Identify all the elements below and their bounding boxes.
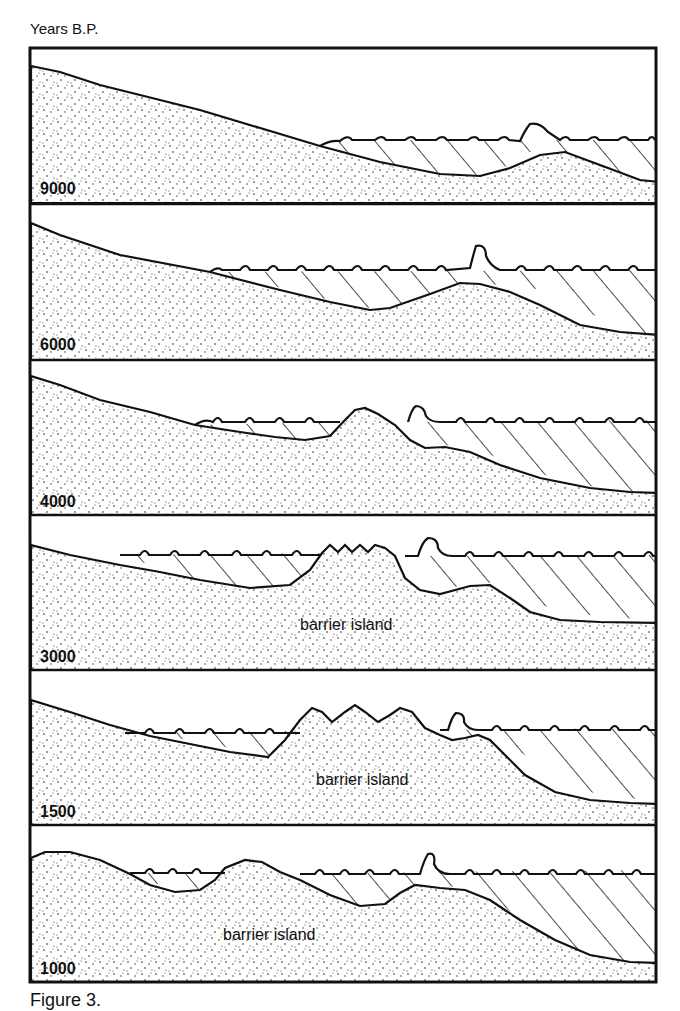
panel-4000 xyxy=(31,376,660,515)
barrier-island-label-1000: barrier island xyxy=(223,926,315,943)
panel-label-6000: 6000 xyxy=(40,336,76,353)
panel-6000 xyxy=(31,223,660,360)
panel-label-1000: 1000 xyxy=(40,960,76,977)
panel-1000 xyxy=(31,852,660,982)
water-surface xyxy=(210,246,655,272)
panel-1500 xyxy=(31,700,660,825)
panel-label-4000: 4000 xyxy=(40,493,76,510)
barrier-island-label-1500: barrier island xyxy=(316,771,408,788)
panel-label-9000: 9000 xyxy=(40,180,76,197)
sand-body xyxy=(31,66,660,203)
panel-3000 xyxy=(31,538,660,670)
panel-9000 xyxy=(31,66,660,203)
figure-caption: Figure 3. xyxy=(30,990,101,1011)
panel-label-3000: 3000 xyxy=(40,648,76,665)
panel-label-1500: 1500 xyxy=(40,803,76,820)
barrier-island-label-3000: barrier island xyxy=(300,616,392,633)
